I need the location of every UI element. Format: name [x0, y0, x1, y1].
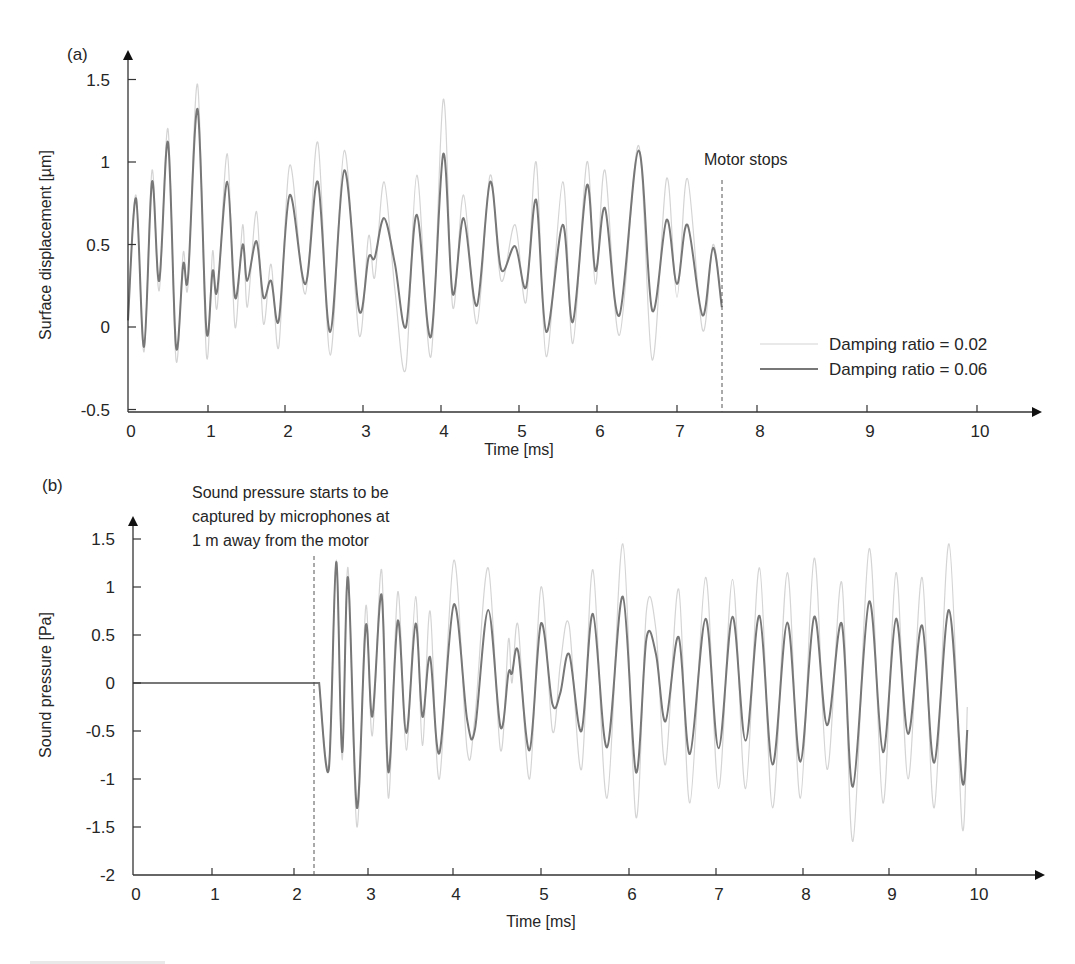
x-tick-label: 10 [971, 422, 990, 441]
x-tick-label: 5 [517, 422, 526, 441]
y-tick-label: 0.5 [91, 626, 115, 645]
panel-b: (b) Sound pressure starts to be captured… [37, 476, 1043, 930]
capture-start-annotation-line-3: 1 m away from the motor [192, 532, 370, 549]
capture-start-annotation-line-1: Sound pressure starts to be [192, 484, 389, 501]
capture-start-annotation-line-2: captured by microphones at [192, 508, 390, 525]
y-tick-label: 1.5 [91, 530, 115, 549]
x-tick-label: 10 [970, 885, 989, 904]
y-tick-label: 0 [106, 674, 115, 693]
legend-label-damping-0.02: Damping ratio = 0.02 [829, 335, 987, 354]
panel-b-x-axis-label: Time [ms] [506, 913, 576, 930]
y-tick-label: -1 [100, 770, 115, 789]
y-tick-label: 1 [106, 578, 115, 597]
x-tick-label: 5 [539, 885, 548, 904]
y-tick-label: -0.5 [86, 722, 115, 741]
legend: Damping ratio = 0.02 Damping ratio = 0.0… [760, 335, 987, 379]
x-tick-label: 9 [887, 885, 896, 904]
panel-a: (a) 1.510.50-0.5 012345678910 Surface di… [37, 45, 1040, 458]
series-b-damping-0.06 [133, 562, 967, 808]
series-a-damping-0.06 [128, 109, 722, 350]
x-tick-label: 0 [131, 885, 140, 904]
x-tick-label: 9 [865, 422, 874, 441]
y-tick-label: -2 [100, 866, 115, 885]
x-tick-label: 6 [627, 885, 636, 904]
legend-label-damping-0.06: Damping ratio = 0.06 [829, 360, 987, 379]
y-tick-label: 0.5 [86, 236, 110, 255]
panel-b-traces [133, 544, 967, 842]
y-tick-label: 0 [101, 318, 110, 337]
x-tick-label: 7 [675, 422, 684, 441]
motor-stops-annotation: Motor stops [704, 151, 788, 168]
panel-a-y-axis-label: Surface displacement [µm] [37, 150, 54, 340]
panel-a-traces [128, 84, 722, 372]
x-tick-label: 3 [361, 422, 370, 441]
series-a-damping-0.02 [128, 84, 722, 372]
x-tick-label: 3 [366, 885, 375, 904]
panel-b-y-axis-label: Sound pressure [Pa] [37, 612, 54, 758]
figure: (a) 1.510.50-0.5 012345678910 Surface di… [0, 0, 1075, 964]
x-tick-label: 8 [755, 422, 764, 441]
y-tick-label: -0.5 [81, 401, 110, 420]
x-tick-label: 0 [126, 422, 135, 441]
x-tick-label: 4 [451, 885, 460, 904]
x-tick-label: 1 [206, 422, 215, 441]
y-tick-label: -1.5 [86, 818, 115, 837]
x-tick-label: 4 [439, 422, 448, 441]
x-tick-label: 6 [595, 422, 604, 441]
x-tick-label: 1 [210, 885, 219, 904]
y-tick-label: 1.5 [86, 71, 110, 90]
panel-a-x-ticks: 012345678910 [126, 405, 989, 441]
panel-a-x-axis-label: Time [ms] [484, 441, 554, 458]
panel-b-x-ticks: 012345678910 [131, 868, 988, 904]
x-tick-label: 7 [714, 885, 723, 904]
x-tick-label: 2 [292, 885, 301, 904]
panel-a-label: (a) [67, 45, 88, 64]
y-tick-label: 1 [101, 153, 110, 172]
x-tick-label: 8 [801, 885, 810, 904]
panel-b-label: (b) [42, 476, 63, 495]
x-tick-label: 2 [283, 422, 292, 441]
